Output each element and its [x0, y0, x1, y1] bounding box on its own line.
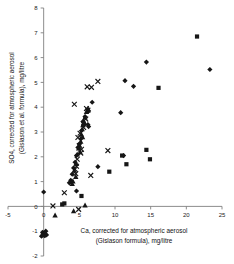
y-axis-title-line1: SO4, corrected for atmospheric aerosol	[8, 52, 16, 164]
marker-square	[120, 153, 124, 157]
marker-diamond	[118, 110, 123, 115]
marker-square	[195, 34, 199, 38]
y-tick-label: -1	[32, 228, 38, 234]
marker-x	[88, 173, 93, 178]
marker-diamond	[95, 164, 100, 169]
marker-diamond	[74, 188, 79, 193]
marker-diamond	[41, 189, 46, 194]
marker-x	[76, 207, 81, 212]
x-tick-label: 10	[112, 212, 119, 218]
y-tick-label: 2	[34, 154, 38, 160]
marker-x	[62, 190, 67, 195]
x-tick-label: 25	[219, 212, 226, 218]
x-axis-title-line1: Ca, corrected for atmospheric aerosol	[81, 227, 188, 235]
marker-square	[148, 157, 152, 161]
y-tick-label: -2	[32, 253, 38, 259]
x-axis-title-line2: (Gislason formula), mg/litre	[96, 237, 173, 245]
marker-square	[107, 170, 111, 174]
marker-x	[72, 102, 77, 107]
y-tick-label: 5	[34, 80, 38, 86]
series-square	[60, 34, 199, 206]
marker-x	[105, 148, 110, 153]
scatter-chart: -50510152025 -2-1012345678 Ca, corrected…	[0, 0, 234, 264]
marker-x	[51, 204, 56, 209]
marker-triangle	[71, 208, 76, 213]
marker-square	[60, 202, 64, 206]
series-triangle	[41, 106, 91, 237]
marker-square	[124, 162, 128, 166]
marker-x	[75, 157, 80, 162]
marker-diamond	[144, 59, 149, 64]
marker-x	[95, 79, 100, 84]
x-tick-label: -5	[5, 212, 11, 218]
axes-group	[8, 8, 222, 256]
x-tick-label: 5	[78, 212, 82, 218]
marker-diamond	[207, 67, 212, 72]
marker-square	[79, 194, 83, 198]
marker-diamond	[131, 84, 136, 89]
marker-diamond	[122, 78, 127, 83]
plot-canvas: -50510152025 -2-1012345678 Ca, corrected…	[0, 0, 234, 264]
x-tick-labels: -50510152025	[5, 212, 226, 218]
y-tick-label: 8	[34, 5, 38, 11]
y-tick-label: 3	[34, 129, 38, 135]
tick-marks-group	[8, 8, 222, 256]
x-tick-label: 0	[42, 212, 46, 218]
x-tick-label: 20	[183, 212, 190, 218]
y-axis-title-line2: (Gislason et al. formula), mg/litre	[18, 61, 26, 154]
marker-square	[144, 148, 148, 152]
marker-x	[89, 85, 94, 90]
y-tick-labels: -2-1012345678	[32, 5, 38, 259]
marker-square	[156, 86, 160, 90]
marker-triangle	[52, 212, 57, 217]
y-tick-label: 7	[34, 30, 38, 36]
y-tick-label: 4	[34, 104, 38, 110]
marker-triangle	[82, 202, 87, 207]
y-tick-label: 6	[34, 55, 38, 61]
y-tick-label: 1	[34, 179, 38, 185]
marker-diamond	[90, 100, 95, 105]
x-tick-label: 15	[147, 212, 154, 218]
